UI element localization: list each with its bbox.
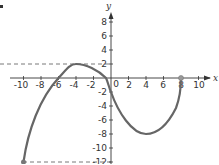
svg-text:-8: -8 [98, 129, 107, 139]
svg-text:4: 4 [101, 45, 107, 55]
svg-text:-4: -4 [70, 80, 79, 90]
svg-text:-6: -6 [98, 115, 107, 125]
svg-text:-10: -10 [14, 80, 29, 90]
svg-text:4: 4 [143, 80, 149, 90]
svg-text:10: 10 [193, 80, 205, 90]
svg-text:-12: -12 [92, 157, 107, 164]
x-axis-arrow-icon [204, 76, 211, 81]
svg-text:-2: -2 [98, 87, 107, 97]
svg-text:2: 2 [101, 59, 107, 69]
function-graph: x y -10 -8 -6 -4 -2 0 2 4 6 8 10 [0, 0, 219, 164]
y-tick-labels: 8 6 4 2 -2 -4 -6 -8 -10 -12 [92, 17, 107, 164]
svg-text:-10: -10 [92, 143, 107, 153]
y-axis-label: y [105, 1, 112, 11]
svg-text:-8: -8 [36, 80, 45, 90]
endpoint-right [179, 76, 184, 81]
endpoint-left [21, 160, 26, 165]
svg-text:6: 6 [101, 31, 107, 41]
x-axis-label: x [213, 73, 218, 83]
svg-text:-4: -4 [98, 101, 107, 111]
svg-text:6: 6 [160, 80, 166, 90]
svg-text:0: 0 [113, 79, 119, 89]
y-axis-arrow-icon [109, 12, 114, 19]
svg-text:2: 2 [126, 80, 132, 90]
list-marker [0, 5, 3, 8]
svg-text:8: 8 [101, 17, 107, 27]
svg-text:-2: -2 [87, 80, 96, 90]
